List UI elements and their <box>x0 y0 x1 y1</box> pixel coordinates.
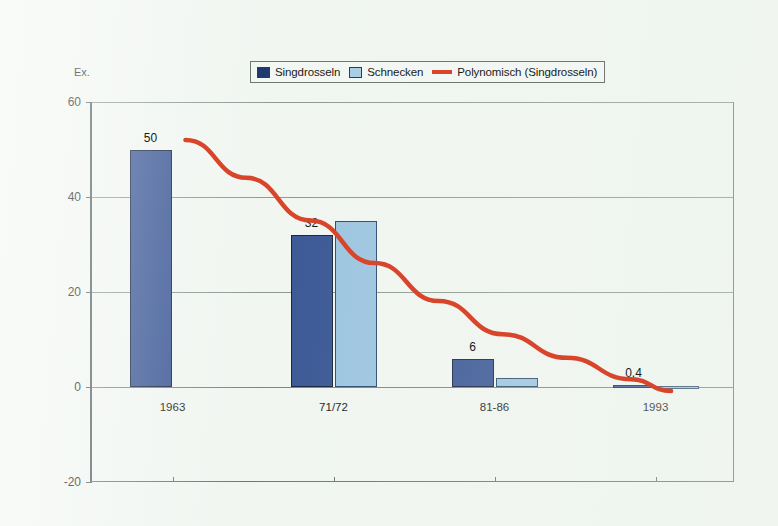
y-tick-mark-20 <box>86 292 92 293</box>
plot-area: 6040200-20 503260,4 196371/7281-861993 <box>90 102 734 482</box>
y-axis-unit-label: Ex. <box>74 66 90 78</box>
legend-item-singdrosseln: Singdrosseln <box>257 66 340 78</box>
data-label-1963: 50 <box>144 131 157 145</box>
y-tick-mark-0 <box>86 387 92 388</box>
x-tick-mark-1993 <box>656 477 657 482</box>
bar-singdrosseln-71/72 <box>291 235 333 387</box>
y-tick-label-20: 20 <box>68 285 81 299</box>
y-tick-mark-60 <box>86 102 92 103</box>
y-tick-label-40: 40 <box>68 190 81 204</box>
bar-singdrosseln-1993 <box>613 385 655 388</box>
legend-swatch-icon-singdrosseln <box>257 67 270 78</box>
y-tick-label--20: -20 <box>64 475 81 489</box>
y-tick-label-0: 0 <box>74 380 81 394</box>
data-label-71/72: 32 <box>305 216 318 230</box>
x-tick-mark-71/72 <box>334 477 335 482</box>
gridline-60 <box>92 102 733 103</box>
x-tick-label-71/72: 71/72 <box>319 401 348 413</box>
gridline-40 <box>92 197 733 198</box>
legend-line-icon-polynomisch <box>432 70 452 74</box>
gridline-20 <box>92 292 733 293</box>
x-tick-mark-81-86 <box>495 477 496 482</box>
bar-singdrosseln-1963 <box>130 150 172 388</box>
bar-singdrosseln-81-86 <box>452 359 494 388</box>
legend-item-schnecken: Schnecken <box>349 66 423 78</box>
y-tick-mark--20 <box>86 482 92 483</box>
x-tick-mark-1963 <box>173 477 174 482</box>
trendline-path <box>185 140 671 391</box>
legend-item-polynomisch: Polynomisch (Singdrosseln) <box>432 66 597 78</box>
chart-canvas: Singdrosseln Schnecken Polynomisch (Sing… <box>22 14 756 512</box>
legend-swatch-icon-schnecken <box>349 67 362 78</box>
x-tick-label-81-86: 81-86 <box>480 401 509 413</box>
bar-schnecken-81-86 <box>496 378 538 388</box>
bar-schnecken-71/72 <box>335 221 377 387</box>
legend-label-polynomisch: Polynomisch (Singdrosseln) <box>457 66 597 78</box>
x-tick-label-1963: 1963 <box>160 401 186 413</box>
chart-page: Singdrosseln Schnecken Polynomisch (Sing… <box>0 0 778 526</box>
x-tick-label-1993: 1993 <box>643 401 669 413</box>
y-tick-mark-40 <box>86 197 92 198</box>
legend-label-singdrosseln: Singdrosseln <box>275 66 340 78</box>
y-tick-label-60: 60 <box>68 95 81 109</box>
legend-label-schnecken: Schnecken <box>367 66 423 78</box>
bar-schnecken-1993 <box>657 386 699 389</box>
data-label-1993: 0,4 <box>625 366 642 380</box>
chart-legend: Singdrosseln Schnecken Polynomisch (Sing… <box>250 61 605 83</box>
data-label-81-86: 6 <box>469 340 476 354</box>
